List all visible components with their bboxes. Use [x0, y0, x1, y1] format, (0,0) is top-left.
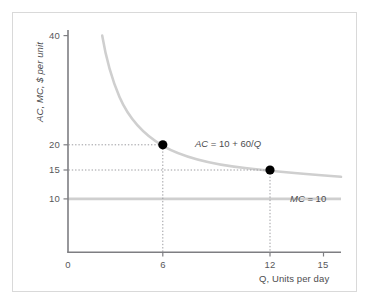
xtick-label-15: 15: [313, 259, 333, 270]
ac-equation-label: AC = 10 + 60/Q: [195, 138, 261, 149]
chart-figure: 40 20 15 10 0 6 12 15 AC, MC, $ per unit…: [0, 0, 369, 308]
ytick-label-40: 40: [38, 30, 60, 41]
ytick-label-20: 20: [38, 139, 60, 150]
y-axis-title: AC, MC, $ per unit: [34, 42, 45, 122]
ytick-label-10: 10: [38, 193, 60, 204]
data-point-q12: [265, 165, 274, 174]
mc-label-rest: = 10: [305, 193, 326, 204]
mc-label-italic: MC: [290, 193, 305, 204]
data-point-q6: [158, 140, 167, 149]
xtick-label-6: 6: [153, 259, 173, 270]
xtick-label-0: 0: [58, 259, 78, 270]
x-axis-title: Q, Units per day: [259, 273, 329, 284]
ac-curve: [102, 36, 341, 177]
ac-label-var: Q: [254, 138, 261, 149]
ytick-label-15: 15: [38, 164, 60, 175]
ac-label-rest: = 10 + 60/: [208, 138, 253, 149]
xtick-label-12: 12: [260, 259, 280, 270]
mc-equation-label: MC = 10: [290, 193, 326, 204]
ac-label-italic: AC: [195, 138, 208, 149]
